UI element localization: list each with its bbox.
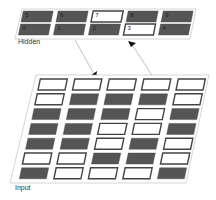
input-pixel-on — [38, 79, 67, 90]
input-pixel-off — [26, 138, 55, 149]
hidden-layer-label: Hidden — [18, 38, 40, 45]
input-pixel-off — [60, 138, 89, 149]
input-pixel-off — [63, 123, 92, 134]
input-pixel-off — [19, 168, 48, 179]
hidden-layer-panel: 5678901234 — [15, 9, 196, 39]
input-pixel-on — [35, 94, 64, 105]
input-pixel-off — [29, 123, 58, 134]
connector-hidden-to-input — [75, 40, 94, 74]
input-pixel-on — [57, 153, 86, 164]
input-layer-label: Input — [15, 184, 31, 191]
input-pixel-on — [173, 94, 202, 105]
input-cells — [19, 79, 205, 179]
input-pixel-on — [142, 79, 171, 90]
connectors — [75, 40, 153, 78]
input-pixel-on — [132, 123, 161, 134]
input-pixel-off — [170, 109, 199, 120]
input-pixel-on — [176, 79, 205, 90]
arrowhead-hidden-icon — [128, 41, 136, 47]
input-pixel-off — [138, 94, 167, 105]
input-pixel-off — [66, 109, 95, 120]
input-pixel-off — [91, 153, 120, 164]
input-pixel-on — [107, 79, 136, 90]
input-pixel-on — [88, 168, 117, 179]
input-pixel-off — [101, 109, 130, 120]
input-pixel-on — [54, 168, 83, 179]
connector-input-to-hidden — [131, 43, 153, 77]
input-pixel-on — [160, 153, 189, 164]
input-pixel-on — [123, 168, 152, 179]
input-pixel-off — [69, 94, 98, 105]
input-pixel-on — [95, 138, 124, 149]
input-pixel-on — [164, 138, 193, 149]
input-pixel-off — [126, 153, 155, 164]
input-pixel-on — [135, 109, 164, 120]
input-pixel-on — [73, 79, 102, 90]
input-pixel-off — [129, 138, 158, 149]
input-pixel-on — [22, 153, 51, 164]
network-diagram: 5678901234 — [0, 0, 216, 200]
input-pixel-off — [104, 94, 133, 105]
input-pixel-off — [32, 109, 61, 120]
input-layer-panel — [10, 75, 209, 183]
input-pixel-off — [157, 168, 186, 179]
input-pixel-on — [98, 123, 127, 134]
input-pixel-off — [167, 123, 196, 134]
